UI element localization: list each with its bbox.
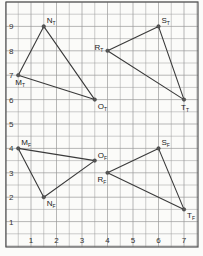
triangle-MNO-F: MFNFOF	[16, 138, 107, 209]
vertex-point	[182, 98, 186, 102]
vertex-point	[16, 73, 20, 77]
x-tick-label: 7	[182, 236, 187, 245]
vertex-subscript: T	[22, 82, 25, 88]
vertex-label: ST	[162, 16, 170, 26]
vertex-label: NT	[47, 16, 56, 26]
x-tick-label: 5	[131, 236, 136, 245]
y-tick-label: 5	[9, 120, 14, 129]
vertex-subscript: T	[53, 20, 56, 26]
triangle-RST-F: RFSFTF	[98, 138, 195, 221]
vertex-label: NF	[47, 199, 56, 209]
x-tick-label: 6	[156, 236, 161, 245]
grid-plot: 1234567123456789MTNTOTRTSTTTMFNFOFRFSFTF	[0, 0, 203, 256]
y-tick-label: 3	[9, 169, 14, 178]
vertex-point	[42, 25, 46, 29]
vertex-label: TF	[187, 211, 195, 221]
vertex-label: OT	[98, 102, 107, 112]
vertex-subscript: F	[103, 179, 106, 185]
coordinate-grid-diagram: 1234567123456789MTNTOTRTSTTTMFNFOFRFSFTF	[0, 0, 203, 256]
vertex-point	[106, 49, 110, 53]
y-tick-label: 6	[9, 96, 14, 105]
triangle-MNO-T: MTNTOT	[15, 16, 107, 111]
vertex-point	[16, 147, 20, 151]
y-tick-label: 8	[9, 47, 14, 56]
y-axis-labels: 123456789	[9, 22, 14, 226]
y-tick-label: 2	[9, 193, 14, 202]
x-axis-labels: 1234567	[29, 236, 187, 245]
vertex-subscript: T	[100, 47, 103, 53]
vertex-subscript: T	[167, 20, 170, 26]
x-tick-label: 2	[54, 236, 59, 245]
x-tick-label: 4	[105, 236, 110, 245]
vertex-point	[106, 171, 110, 175]
y-tick-label: 4	[9, 144, 14, 153]
y-tick-label: 9	[9, 22, 14, 31]
y-tick-label: 7	[9, 71, 14, 80]
grid-lines	[6, 2, 199, 247]
vertex-label: TT	[181, 103, 189, 113]
vertex-point	[93, 159, 97, 163]
vertex-subscript: F	[104, 155, 107, 161]
vertex-subscript: F	[28, 142, 31, 148]
vertex-label: OF	[98, 151, 107, 161]
vertex-label: MT	[15, 78, 25, 88]
vertex-point	[93, 98, 97, 102]
x-tick-label: 3	[80, 236, 85, 245]
vertex-point	[157, 147, 161, 151]
vertex-point	[182, 208, 186, 212]
vertex-point	[157, 25, 161, 29]
triangle-RST-T: RTSTTT	[95, 16, 189, 112]
y-tick-label: 1	[9, 218, 14, 227]
vertex-subscript: T	[186, 107, 189, 113]
vertex-subscript: F	[167, 142, 170, 148]
vertex-subscript: F	[53, 203, 56, 209]
vertex-label: SF	[162, 138, 170, 148]
vertex-subscript: F	[192, 215, 195, 221]
vertex-subscript: T	[104, 106, 107, 112]
vertex-point	[42, 195, 46, 199]
x-tick-label: 1	[29, 236, 34, 245]
vertex-label: MF	[21, 138, 31, 148]
vertex-label: RF	[98, 175, 107, 185]
vertex-label: RT	[95, 43, 104, 53]
